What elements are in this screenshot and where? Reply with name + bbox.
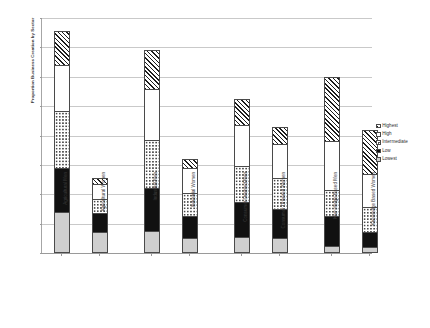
- chart-legend: HighestHighIntermediateLowLowest: [376, 122, 408, 163]
- bar-segment-highest: [54, 31, 70, 65]
- bar-segment-highest: [144, 50, 160, 88]
- bar-segment-highest: [324, 77, 340, 142]
- legend-label: Highest: [382, 124, 398, 129]
- gridline: [42, 47, 372, 48]
- x-axis-label: Industrial Men: [153, 172, 158, 258]
- legend-label: High: [382, 132, 391, 137]
- gridline: [42, 165, 372, 166]
- legend-item-low: Low: [376, 147, 408, 155]
- y-axis-tick: [40, 253, 43, 254]
- x-axis-label: Knowledge Based Women: [371, 172, 376, 258]
- x-axis-label: Consumer Oriented Men: [243, 172, 248, 258]
- legend-label: Intermediate: [382, 140, 408, 145]
- legend-swatch-low-icon: [376, 149, 381, 154]
- x-axis-tick: [331, 253, 332, 256]
- y-axis-tick: [40, 77, 43, 78]
- x-axis-tick: [369, 253, 370, 256]
- legend-item-intermediate: Intermediate: [376, 139, 408, 147]
- y-axis-title: Proportion Business Creation by Sector: [30, 0, 35, 145]
- legend-swatch-lowest-icon: [376, 157, 381, 162]
- gridline: [42, 253, 372, 254]
- legend-swatch-intermediate-icon: [376, 140, 381, 145]
- y-axis-tick: [40, 18, 43, 19]
- plot-area: [41, 18, 371, 253]
- legend-label: Lowest: [382, 157, 397, 162]
- y-axis-tick: [40, 165, 43, 166]
- x-axis-label: Consumer Oriented Women: [281, 172, 286, 258]
- x-axis-tick: [189, 253, 190, 256]
- gridline: [42, 106, 372, 107]
- x-axis-tick: [151, 253, 152, 256]
- gridline: [42, 136, 372, 137]
- gridline: [42, 18, 372, 19]
- x-axis-label: Agricultural Women: [101, 172, 106, 258]
- x-axis-label: Industrial Women: [191, 172, 196, 258]
- bar-segment-intermediate: [54, 111, 70, 168]
- bar-segment-highest: [272, 127, 288, 145]
- x-axis-tick: [241, 253, 242, 256]
- gridline: [42, 77, 372, 78]
- bar-segment-high: [144, 89, 160, 140]
- x-axis-label: Knowledge Based Men: [333, 172, 338, 258]
- x-axis-label: Agricultural Men: [63, 172, 68, 258]
- bar-segment-highest: [182, 159, 198, 168]
- bar-segment-highest: [234, 99, 250, 125]
- legend-item-high: High: [376, 130, 408, 138]
- stacked-bar-chart: Proportion Business Creation by Sector H…: [0, 0, 430, 328]
- x-axis-tick: [279, 253, 280, 256]
- y-axis-tick: [40, 106, 43, 107]
- x-axis-tick: [99, 253, 100, 256]
- legend-label: Low: [382, 149, 390, 154]
- y-axis-tick: [40, 194, 43, 195]
- legend-swatch-highest-icon: [376, 124, 381, 129]
- bar-segment-high: [54, 65, 70, 111]
- legend-item-lowest: Lowest: [376, 155, 408, 163]
- legend-swatch-high-icon: [376, 132, 381, 137]
- legend-item-highest: Highest: [376, 122, 408, 130]
- y-axis-tick: [40, 224, 43, 225]
- x-axis-tick: [61, 253, 62, 256]
- y-axis-tick: [40, 47, 43, 48]
- bar-segment-high: [234, 125, 250, 166]
- y-axis-tick: [40, 136, 43, 137]
